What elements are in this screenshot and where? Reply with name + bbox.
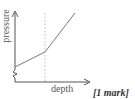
x-axis-label: depth [51,84,73,94]
y-axis-break-icon [13,70,17,82]
marks-label: [1 mark] [93,88,129,98]
y-axis-label: pressure [1,6,11,46]
